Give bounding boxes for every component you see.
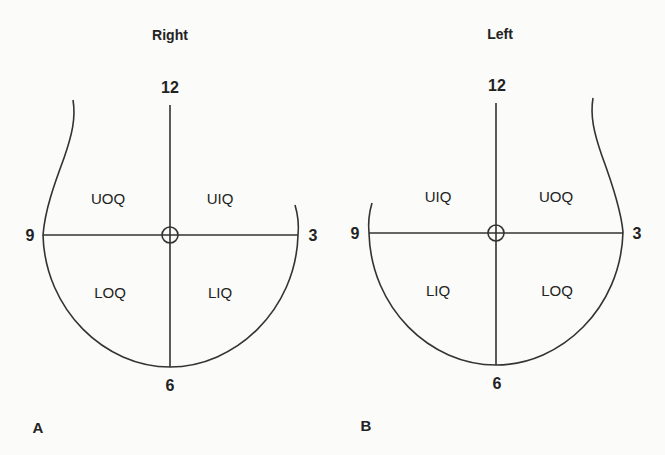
panel-a-quadrant-lower-right: LIQ xyxy=(208,285,232,300)
panel-b-quadrant-lower-right: LOQ xyxy=(541,283,573,298)
panel-b-clock-6: 6 xyxy=(493,376,502,392)
panel-a-clock-3: 3 xyxy=(309,228,318,244)
panel-a-label: A xyxy=(33,420,44,435)
panel-b-clock-12: 12 xyxy=(488,78,506,94)
panel-b-clock-3: 3 xyxy=(633,226,642,242)
right-breast-outline xyxy=(43,100,298,367)
breast-quadrant-diagram xyxy=(0,0,665,455)
panel-a-clock-9: 9 xyxy=(26,228,35,244)
panel-b-quadrant-upper-left: UIQ xyxy=(425,189,452,204)
left-breast-medial-contour xyxy=(369,203,372,233)
panel-a-clock-6: 6 xyxy=(166,378,175,394)
panel-b-label: B xyxy=(361,418,372,433)
right-breast-upper-contour xyxy=(43,100,74,235)
panel-a-quadrant-upper-right: UIQ xyxy=(207,191,234,206)
panel-a-clock-12: 12 xyxy=(161,80,179,96)
right-breast-medial-contour xyxy=(295,205,298,235)
left-breast-upper-contour xyxy=(592,98,623,232)
panel-b-title: Left xyxy=(487,27,513,41)
panel-b-quadrant-lower-left: LIQ xyxy=(426,283,450,298)
panel-a-quadrant-lower-left: LOQ xyxy=(94,285,126,300)
panel-a-quadrant-upper-left: UOQ xyxy=(91,191,125,206)
panel-b-clock-9: 9 xyxy=(351,226,360,242)
left-breast-outline xyxy=(369,98,623,365)
panel-a-title: Right xyxy=(152,28,188,42)
panel-b-quadrant-upper-right: UOQ xyxy=(539,189,573,204)
